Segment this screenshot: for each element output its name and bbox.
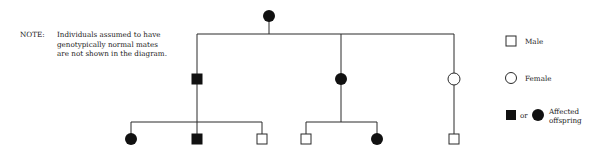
legend-male-icon — [506, 36, 516, 46]
unaffected-male-icon — [449, 134, 459, 144]
affected-male-icon — [192, 74, 203, 85]
legend-or-label: or — [520, 111, 528, 120]
affected-male-icon — [192, 134, 203, 145]
affected-female-icon — [335, 73, 347, 85]
affected-female-icon — [371, 133, 383, 145]
affected-female-icon — [125, 133, 137, 145]
affected-female-icon — [263, 10, 275, 22]
legend-male-label: Male — [525, 37, 543, 46]
legend-affected-line-1: Affected — [549, 107, 582, 116]
legend-female-label: Female — [525, 74, 552, 83]
connector-lines — [131, 16, 454, 139]
unaffected-male-icon — [257, 134, 267, 144]
legend-affected-line-2: offspring — [549, 116, 582, 125]
legend-affected-female-icon — [532, 109, 544, 121]
legend-affected-label: Affected offspring — [549, 107, 582, 125]
unaffected-female-icon — [448, 73, 460, 85]
pedigree-chart — [0, 0, 603, 153]
unaffected-male-icon — [301, 134, 311, 144]
legend-affected-male-icon — [506, 110, 516, 120]
legend-female-icon — [506, 73, 517, 84]
